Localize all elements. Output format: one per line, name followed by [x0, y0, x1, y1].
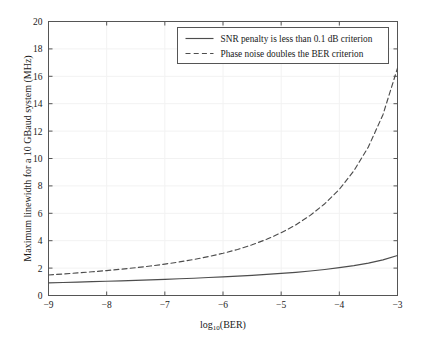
x-axis-tick-label: −3 — [392, 300, 402, 310]
x-axis-tick-label: −6 — [218, 300, 228, 310]
x-axis-tick-label: −8 — [102, 300, 112, 310]
x-axis-tick-label: −4 — [334, 300, 344, 310]
y-axis-tick-label: 20 — [33, 17, 43, 27]
legend-label-2: Phase noise doubles the BER criterion — [221, 49, 364, 59]
x-axis-tick-label: −9 — [43, 300, 53, 310]
axis-titles: log10(BER)Maximum linewidth for a 10 GBa… — [22, 55, 246, 332]
x-axis-title: log10(BER) — [200, 319, 246, 333]
y-axis-tick-label: 2 — [38, 264, 43, 274]
y-axis-tick-label: 14 — [33, 99, 43, 109]
y-axis-tick-label: 16 — [33, 72, 43, 82]
y-axis-tick-label: 10 — [33, 154, 43, 164]
y-axis-tick-label: 6 — [38, 209, 43, 219]
y-axis-tick-label: 0 — [38, 291, 43, 301]
legend-label-1: SNR penalty is less than 0.1 dB criterio… — [221, 34, 373, 44]
y-axis-tick-label: 18 — [33, 44, 43, 54]
y-axis-tick-label: 12 — [33, 127, 43, 137]
chart-canvas: 02468101214161820−9−8−7−6−5−4−3 SNR pena… — [0, 0, 423, 348]
x-axis-tick-label: −7 — [160, 300, 170, 310]
y-axis-tick-label: 4 — [38, 236, 43, 246]
y-axis-tick-label: 8 — [38, 181, 43, 191]
chart-figure: 02468101214161820−9−8−7−6−5−4−3 SNR pena… — [0, 0, 423, 348]
chart-legend: SNR penalty is less than 0.1 dB criterio… — [178, 28, 389, 64]
y-axis-title: Maximum linewidth for a 10 GBaud system … — [22, 55, 34, 261]
x-axis-tick-label: −5 — [276, 300, 286, 310]
